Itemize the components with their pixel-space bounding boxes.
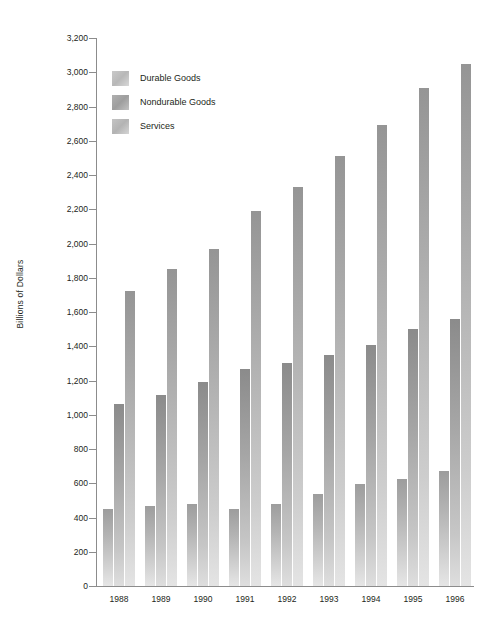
- bar: [293, 187, 303, 586]
- bar: [324, 355, 334, 586]
- bar: [377, 125, 387, 586]
- y-axis-tick-label: 600: [0, 479, 100, 488]
- chart-legend: Durable GoodsNondurable GoodsServices: [112, 68, 216, 140]
- bar: [439, 471, 449, 586]
- legend-item-label: Durable Goods: [140, 73, 201, 83]
- bar: [419, 88, 429, 586]
- bar: [125, 291, 135, 586]
- bar: [397, 479, 407, 586]
- bar: [335, 156, 345, 586]
- x-axis-line: [96, 586, 474, 587]
- legend-item-label: Services: [140, 121, 175, 131]
- y-axis-tick-label: 800: [0, 445, 100, 454]
- bar: [198, 382, 208, 586]
- y-axis-tick-label: 1,000: [0, 411, 100, 420]
- y-axis-tick-label: 3,200: [0, 34, 100, 43]
- bar: [313, 494, 323, 586]
- legend-swatch-icon: [112, 71, 129, 86]
- y-axis-tick-label: 2,200: [0, 205, 100, 214]
- bar-group: [439, 38, 471, 586]
- y-axis-tick-label: 2,000: [0, 240, 100, 249]
- bar: [251, 211, 261, 586]
- bar: [229, 509, 239, 586]
- y-axis-tick-label: 3,000: [0, 68, 100, 77]
- legend-item-label: Nondurable Goods: [140, 97, 216, 107]
- bar: [240, 369, 250, 586]
- bar-group: [355, 38, 387, 586]
- legend-item: Durable Goods: [112, 68, 216, 88]
- bar: [408, 329, 418, 586]
- y-axis-tick-label: 2,800: [0, 103, 100, 112]
- y-axis-tick-label: 2,600: [0, 137, 100, 146]
- bar: [114, 404, 124, 586]
- bar: [187, 504, 197, 586]
- bar: [103, 509, 113, 586]
- bar: [450, 319, 460, 586]
- bar: [145, 506, 155, 586]
- y-axis-tick-label: 1,400: [0, 342, 100, 351]
- bar: [271, 504, 281, 586]
- x-axis-tick-label: 1996: [425, 594, 484, 604]
- bar: [282, 363, 292, 586]
- y-axis-tick-label: 400: [0, 514, 100, 523]
- bar: [167, 269, 177, 586]
- y-axis-tick-label: 1,600: [0, 308, 100, 317]
- legend-swatch-icon: [112, 119, 129, 134]
- legend-item: Services: [112, 116, 216, 136]
- y-axis-tick-label: 1,800: [0, 274, 100, 283]
- bar-group: [229, 38, 261, 586]
- bar-chart: Billions of Dollars 02004006008001,0001,…: [0, 0, 484, 633]
- bar: [156, 395, 166, 586]
- y-axis-title: Billions of Dollars: [15, 234, 25, 354]
- y-axis-tick-label: 2,400: [0, 171, 100, 180]
- y-axis-tick-label: 0: [0, 582, 100, 591]
- y-axis-tick-label: 1,200: [0, 377, 100, 386]
- bar: [461, 64, 471, 586]
- bar: [355, 484, 365, 586]
- bar: [209, 249, 219, 586]
- y-axis-tick-label: 200: [0, 548, 100, 557]
- legend-swatch-icon: [112, 95, 129, 110]
- legend-item: Nondurable Goods: [112, 92, 216, 112]
- bar-group: [271, 38, 303, 586]
- bar: [366, 345, 376, 586]
- bar-group: [313, 38, 345, 586]
- bar-group: [397, 38, 429, 586]
